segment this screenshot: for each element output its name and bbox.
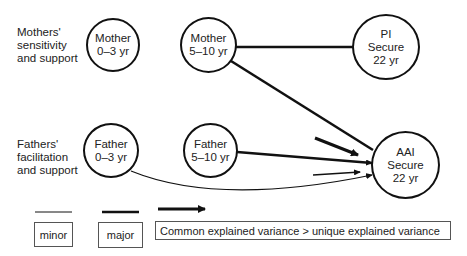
node-aai-secure: AAI Secure 22 yr xyxy=(371,131,440,199)
node-label: Mother xyxy=(95,32,131,45)
label-line: sensitivity xyxy=(17,39,78,52)
label-line: Fathers' xyxy=(17,138,78,151)
node-father-5-10: Father 5–10 yr xyxy=(183,123,238,178)
legend-arrow-label: Common explained variance > unique expla… xyxy=(160,225,440,237)
label-line: and support xyxy=(17,52,78,65)
node-mother-0-3: Mother 0–3 yr xyxy=(86,18,140,72)
node-father-0-3: Father 0–3 yr xyxy=(83,123,139,178)
node-label: 0–3 yr xyxy=(95,151,127,164)
edge-mother510-aai xyxy=(231,61,373,150)
thin-arrow xyxy=(313,172,360,175)
common-arrow xyxy=(315,138,358,155)
node-label: 5–10 yr xyxy=(191,151,229,164)
node-label: Father xyxy=(194,138,227,151)
node-label: 0–3 yr xyxy=(97,45,129,58)
legend-arrow-box: Common explained variance > unique expla… xyxy=(155,221,451,240)
node-label: 5–10 yr xyxy=(189,45,227,58)
legend-minor-label: minor xyxy=(40,229,68,241)
node-label: 22 yr xyxy=(373,54,399,67)
node-label: Secure xyxy=(368,41,404,54)
legend-major-label: major xyxy=(107,229,135,241)
label-line: and support xyxy=(17,164,78,177)
node-label: Mother xyxy=(191,32,227,45)
mothers-row-label: Mothers' sensitivity and support xyxy=(17,26,78,65)
legend-major: major xyxy=(98,222,143,248)
node-label: AAI xyxy=(396,146,415,159)
node-label: Father xyxy=(94,138,127,151)
node-label: Secure xyxy=(387,159,423,172)
node-pi-secure: PI Secure 22 yr xyxy=(352,14,420,80)
node-mother-5-10: Mother 5–10 yr xyxy=(180,17,237,73)
fathers-row-label: Fathers' facilitation and support xyxy=(17,138,78,177)
label-line: Mothers' xyxy=(17,26,78,39)
legend-minor: minor xyxy=(34,222,73,247)
node-label: 22 yr xyxy=(393,172,419,185)
node-label: PI xyxy=(381,28,392,41)
label-line: facilitation xyxy=(17,151,78,164)
